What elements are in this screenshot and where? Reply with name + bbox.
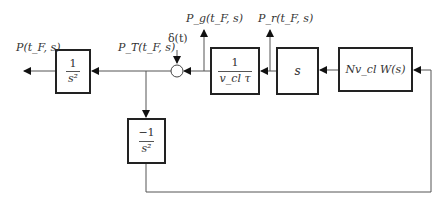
- block-integrator-out: 1 s²: [55, 49, 91, 94]
- label-impulse: δ(t): [168, 33, 188, 44]
- block-numerator: −1: [136, 127, 156, 140]
- block-inverse-vcl-tau: 1 v_cl τ: [210, 47, 260, 95]
- block-source: Nv_cl W(s): [338, 47, 413, 92]
- block-diagram: 1 s² −1 s² 1 v_cl τ s Nv_cl W(s) P(t_F, …: [0, 0, 442, 204]
- label-output-signal: P(t_F, s): [16, 42, 60, 53]
- label-pg-signal: P_g(t_F, s): [186, 13, 243, 24]
- connection-lines: [0, 0, 442, 204]
- block-differentiator: s: [276, 47, 319, 95]
- block-numerator: 1: [229, 57, 240, 70]
- block-label: s: [294, 64, 300, 78]
- block-label: Nv_cl W(s): [345, 63, 405, 76]
- summing-junction: [171, 65, 183, 77]
- block-neg-integrator: −1 s²: [127, 118, 166, 164]
- block-numerator: 1: [68, 58, 79, 71]
- label-pr-signal: P_r(t_F, s): [258, 13, 313, 24]
- label-total-signal: P_T(t_F, s): [118, 42, 175, 53]
- block-denominator: v_cl τ: [218, 71, 253, 85]
- block-denominator: s²: [139, 141, 153, 155]
- block-denominator: s²: [66, 71, 80, 85]
